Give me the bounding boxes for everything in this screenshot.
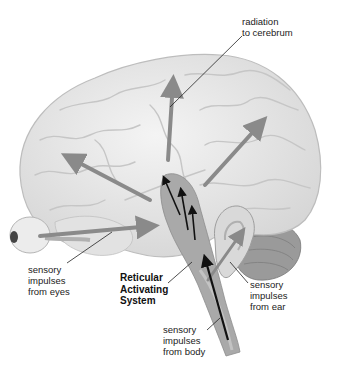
brain-illustration — [0, 0, 337, 370]
label-radiation-to-cerebrum: radiation to cerebrum — [242, 16, 293, 38]
label-sensory-from-body: sensory impulses from body — [163, 324, 205, 357]
label-sensory-from-ear: sensory impulses from ear — [250, 279, 288, 312]
label-sensory-from-eyes: sensory impulses from eyes — [28, 264, 70, 297]
label-reticular-activating-system: Reticular Activating System — [120, 272, 168, 307]
